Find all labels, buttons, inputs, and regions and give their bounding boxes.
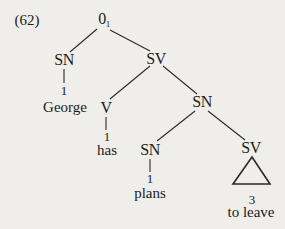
node-sv-main: SV (146, 51, 165, 67)
index-plans: 1 (147, 172, 154, 185)
word-has: has (97, 143, 117, 158)
node-v: V (100, 100, 111, 116)
word-to-leave: to leave (227, 205, 274, 220)
root-node: 01 (98, 11, 110, 29)
word-plans: plans (134, 186, 166, 201)
root-subscript: 1 (106, 19, 110, 29)
root-label: 0 (98, 10, 106, 27)
example-number: (62) (15, 13, 40, 28)
word-george: George (43, 100, 87, 115)
branch-root-sn (70, 29, 97, 52)
node-sn-object: SN (192, 94, 211, 110)
branch-root-sv (110, 30, 150, 51)
node-sn-inner: SN (140, 142, 159, 158)
triangle-abbreviation (233, 157, 270, 184)
branch-sv-sn (163, 66, 197, 94)
node-sn-subject: SN (54, 52, 73, 68)
index-george: 1 (61, 84, 68, 97)
branch-sv-v (110, 66, 150, 99)
node-sv-inner: SV (241, 140, 260, 156)
branch-sn-sv (208, 111, 245, 140)
branch-sn-sn (157, 111, 195, 141)
